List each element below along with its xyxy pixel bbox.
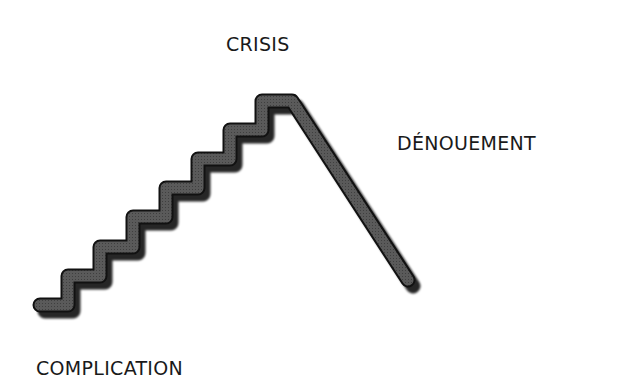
- plot-structure-diagram: CRISIS DÉNOUEMENT COMPLICATION: [0, 0, 628, 390]
- crisis-label: CRISIS: [226, 33, 290, 55]
- staircase-path-graphic: [0, 0, 628, 390]
- denouement-label: DÉNOUEMENT: [397, 132, 536, 154]
- complication-label: COMPLICATION: [36, 357, 183, 379]
